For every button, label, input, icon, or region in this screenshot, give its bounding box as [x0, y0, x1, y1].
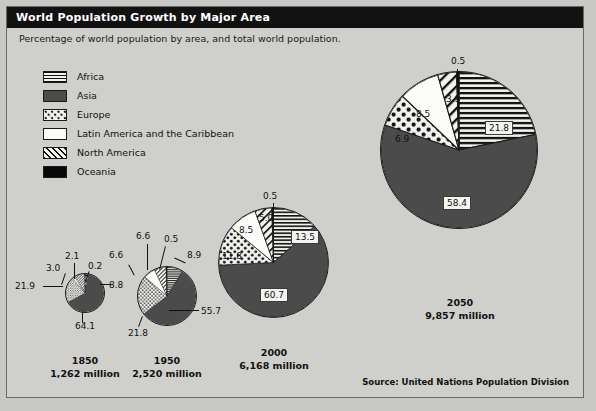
legend-swatch-latin-america [43, 128, 67, 140]
pie-1950-value-latin-america: 6.6 [109, 250, 123, 260]
leader-line [128, 264, 135, 275]
pie-2000-value-africa: 13.5 [291, 230, 319, 244]
legend-label-latin-america: Latin America and the Caribbean [77, 128, 234, 139]
leader-line [138, 316, 143, 327]
legend-label-north-america: North America [77, 147, 146, 158]
legend-label-europe: Europe [77, 109, 110, 120]
pie-2050-value-asia: 58.4 [443, 196, 471, 210]
pie-2050-value-north-america: 3.9 [446, 94, 460, 104]
source-note: Source: United Nations Population Divisi… [362, 377, 569, 387]
pie-total-2000: 6,168 million [207, 359, 341, 372]
pie-2000-value-europe: 11.8 [222, 251, 242, 261]
plot-area: Africa Asia Europe Latin America and the… [7, 51, 583, 398]
chart-subtitle: Percentage of world population by area, … [19, 33, 341, 44]
leader-line [74, 263, 75, 279]
pie-year-2000: 2000 [207, 346, 341, 359]
leader-line [82, 311, 83, 323]
pie-2000-value-asia: 60.7 [260, 288, 288, 302]
leader-line [100, 284, 111, 285]
pie-1850-value-oceania: 0.2 [88, 261, 102, 271]
leader-line [457, 69, 458, 75]
pie-2050-value-latin-america: 8.5 [416, 109, 430, 119]
legend-swatch-oceania [43, 166, 67, 178]
legend-item-africa: Africa [43, 67, 234, 86]
pie-2000-value-north-america: 5.0 [259, 213, 273, 223]
pie-1850-value-europe: 3.0 [46, 263, 60, 273]
pie-1950-value-north-america: 6.6 [136, 231, 150, 241]
legend-swatch-europe [43, 109, 67, 121]
pie-2050-value-oceania: 0.5 [451, 56, 465, 66]
pie-1950-value-europe: 21.8 [128, 328, 148, 338]
legend-label-africa: Africa [77, 71, 104, 82]
leader-line [147, 244, 148, 270]
legend-label-oceania: Oceania [77, 166, 116, 177]
legend-label-asia: Asia [77, 90, 97, 101]
pie-group-2050: 0.5 21.8 58.4 6.9 8.5 3.9 2050 9,857 mil… [345, 61, 575, 371]
legend-swatch-africa [43, 71, 67, 83]
leader-line [174, 258, 185, 264]
pie-2000-value-oceania: 0.5 [263, 191, 277, 201]
pie-2000-value-latin-america: 8.5 [239, 225, 253, 235]
page-title: World Population Growth by Major Area [7, 7, 583, 28]
legend-swatch-asia [43, 90, 67, 102]
pie-caption-2050: 2050 9,857 million [395, 296, 525, 322]
pie-1950-value-oceania: 0.5 [164, 234, 178, 244]
pie-1850-value-asia-label: 21.9 [15, 281, 35, 291]
pie-2050-value-europe: 6.9 [395, 134, 409, 144]
leader-line [43, 286, 63, 287]
pie-group-2000: 0.5 13.5 60.7 11.8 8.5 5.0 2000 6,168 mi… [187, 151, 357, 371]
pie-caption-2000: 2000 6,168 million [207, 346, 341, 372]
leader-line [273, 203, 274, 211]
leader-line [61, 273, 66, 285]
pie-2050-value-africa: 21.8 [485, 121, 513, 135]
legend-swatch-north-america [43, 147, 67, 159]
pie-year-2050: 2050 [395, 296, 525, 309]
chart-frame: World Population Growth by Major Area Pe… [6, 6, 584, 398]
legend-item-latin-america: Latin America and the Caribbean [43, 124, 234, 143]
pie-1850-value-latin-america: 2.1 [65, 251, 79, 261]
legend-item-asia: Asia [43, 86, 234, 105]
pie-total-2050: 9,857 million [395, 309, 525, 322]
pie-1850-value-asia: 64.1 [75, 321, 95, 331]
legend-item-europe: Europe [43, 105, 234, 124]
